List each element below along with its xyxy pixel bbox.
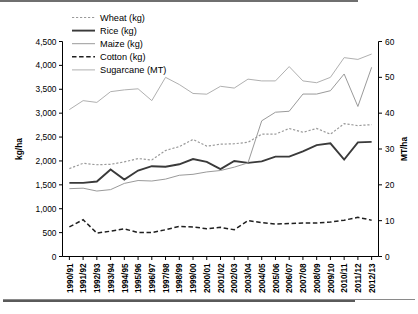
x-axis-tick-label: 1993/94 <box>107 263 116 293</box>
right-axis-tick-label: 0 <box>385 252 390 262</box>
right-axis-title: MT/ha <box>399 137 409 162</box>
series-line-sugarcane-mt <box>69 54 371 110</box>
legend-label: Maize (kg) <box>100 39 143 49</box>
left-axis-tick-label: 500 <box>43 228 57 238</box>
x-axis-tick-label: 1998/99 <box>175 263 184 293</box>
left-axis-tick-label: 4,500 <box>36 37 57 47</box>
x-axis-tick-label: 2002/03 <box>230 263 239 293</box>
right-axis-tick-label: 30 <box>385 144 395 154</box>
left-axis-title: kg/ha <box>14 138 24 160</box>
x-axis-tick-label: 2001/02 <box>217 263 226 293</box>
right-axis-tick-label: 40 <box>385 108 395 118</box>
x-axis-tick-label: 2004/05 <box>258 263 267 293</box>
left-axis-tick-label: 2,000 <box>36 156 57 166</box>
legend-label: Rice (kg) <box>100 26 137 36</box>
legend-label: Sugarcane (MT) <box>100 65 166 75</box>
series-line-wheat-kg <box>69 124 371 169</box>
x-axis-tick-label: 1990/91 <box>66 263 75 293</box>
legend-label: Cotton (kg) <box>100 52 145 62</box>
legend-label: Wheat (kg) <box>100 13 145 23</box>
x-axis-tick-label: 1994/95 <box>121 263 130 293</box>
left-axis-tick-label: 3,000 <box>36 108 57 118</box>
figure-container: 05001,0001,5002,0002,5003,0003,5004,0004… <box>0 0 418 314</box>
x-axis-tick-label: 2003/04 <box>244 263 253 293</box>
x-axis-tick-label: 1997/98 <box>162 263 171 293</box>
right-axis-tick-label: 60 <box>385 37 395 47</box>
left-axis-tick-label: 4,000 <box>36 60 57 70</box>
yield-trends-line-chart: 05001,0001,5002,0002,5003,0003,5004,0004… <box>0 0 418 314</box>
x-axis-tick-label: 2009/10 <box>327 263 336 293</box>
right-axis-tick-label: 50 <box>385 72 395 82</box>
x-axis-tick-label: 1996/97 <box>148 263 157 293</box>
x-axis-tick-label: 2000/01 <box>203 263 212 293</box>
right-axis-tick-label: 10 <box>385 216 395 226</box>
x-axis-tick-label: 1999/00 <box>189 263 198 293</box>
x-axis-tick-label: 2006/07 <box>285 263 294 293</box>
x-axis-tick-label: 2010/11 <box>340 263 349 293</box>
x-axis-tick-label: 1992/93 <box>93 263 102 293</box>
left-axis-tick-label: 2,500 <box>36 132 57 142</box>
series-line-cotton-kg <box>69 217 371 233</box>
x-axis-tick-label: 2008/09 <box>313 263 322 293</box>
x-axis-tick-label: 2007/08 <box>299 263 308 293</box>
x-axis-tick-label: 2005/06 <box>272 263 281 293</box>
right-axis-tick-label: 20 <box>385 180 395 190</box>
top-rule <box>0 0 358 2</box>
x-axis-tick-label: 2012/13 <box>368 263 377 293</box>
x-axis-tick-label: 1991/92 <box>79 263 88 293</box>
series-line-rice-kg <box>69 142 371 183</box>
left-axis-tick-label: 3,500 <box>36 84 57 94</box>
x-axis-tick-label: 2011/12 <box>354 263 363 293</box>
left-axis-tick-label: 1,000 <box>36 204 57 214</box>
bottom-rule-thick <box>3 300 355 302</box>
left-axis-tick-label: 0 <box>52 252 57 262</box>
x-axis-tick-label: 1995/96 <box>134 263 143 293</box>
left-axis-tick-label: 1,500 <box>36 180 57 190</box>
